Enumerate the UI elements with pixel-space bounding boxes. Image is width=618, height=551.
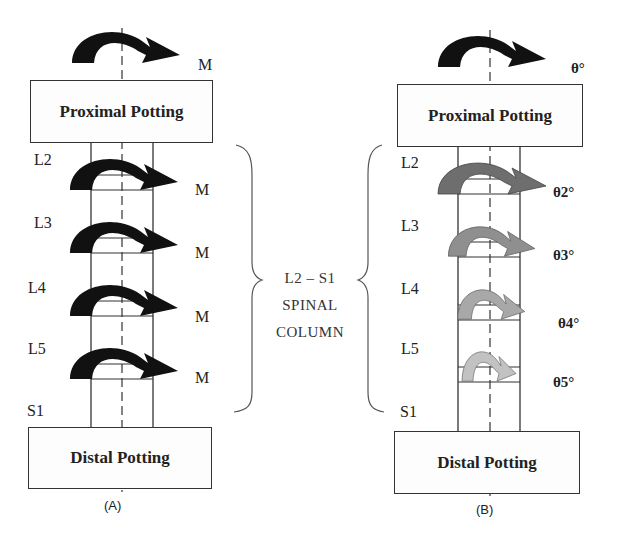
top-moment-label-a: M <box>198 56 212 74</box>
proximal-potting-label: Proximal Potting <box>31 102 212 122</box>
moment-label-l5: M <box>195 369 209 387</box>
vertebra-label-l2: L2 <box>34 151 52 169</box>
rotation-label-l5: θ5° <box>553 374 574 391</box>
proximal-potting-box-b: Proximal Potting <box>397 84 583 147</box>
vertebra-label-l2: L2 <box>401 154 419 172</box>
vertebra-label-l3: L3 <box>401 217 419 235</box>
spinal-text: SPINAL <box>250 292 370 319</box>
panel-label-a: (A) <box>104 498 121 513</box>
rotation-label-l3: θ3° <box>553 247 574 264</box>
spinal-column-label: L2 – S1 SPINAL COLUMN <box>250 265 370 346</box>
top-rotation-label-b: θ° <box>571 60 585 77</box>
proximal-potting-label: Proximal Potting <box>398 106 582 126</box>
column-text: COLUMN <box>250 319 370 346</box>
rotation-label-l2: θ2° <box>553 184 574 201</box>
vertebra-label-l5: L5 <box>401 340 419 358</box>
disc-lines <box>458 179 520 382</box>
distal-potting-label: Distal Potting <box>395 453 579 473</box>
vertebra-label-l4: L4 <box>28 279 46 297</box>
vertebra-label-s1: S1 <box>400 403 417 421</box>
panel-label-b: (B) <box>476 502 493 517</box>
vertebra-label-l5: L5 <box>28 340 46 358</box>
vertebra-label-l4: L4 <box>401 280 419 298</box>
distal-potting-box-b: Distal Potting <box>394 431 580 494</box>
distal-potting-label: Distal Potting <box>29 448 211 468</box>
vertebra-label-s1: S1 <box>27 402 44 420</box>
proximal-potting-box-a: Proximal Potting <box>30 80 213 143</box>
vertebra-label-l3: L3 <box>34 214 52 232</box>
moment-label-l3: M <box>195 244 209 262</box>
spinal-range-text: L2 – S1 <box>250 265 370 292</box>
moment-label-l4: M <box>195 308 209 326</box>
rotation-arrow-top-icon <box>438 36 546 67</box>
distal-potting-box-a: Distal Potting <box>28 427 212 489</box>
rotation-label-l4: θ4° <box>558 315 579 332</box>
moment-label-l2: M <box>195 181 209 199</box>
disc-lines <box>91 175 153 379</box>
moment-arrow-top-icon <box>72 32 180 63</box>
